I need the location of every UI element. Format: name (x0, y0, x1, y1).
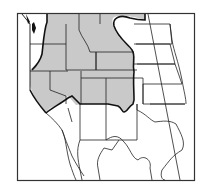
coastline-west (22, 14, 30, 90)
range-map (0, 0, 202, 195)
shaded-range-area (30, 14, 145, 113)
puget-sound (26, 14, 36, 34)
